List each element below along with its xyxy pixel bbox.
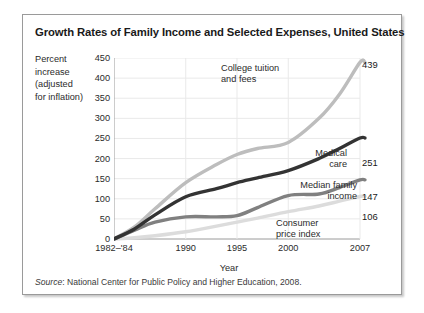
source-note-text: : National Center for Public Policy and … — [62, 277, 301, 287]
annotation-medical-care-line-2: care — [299, 159, 347, 170]
annotation-college-tuition: College tuition and fees — [221, 63, 279, 86]
y-axis-tick-label: 300 — [80, 113, 110, 123]
x-axis-tick-label: 2007 — [350, 243, 370, 253]
y-axis-tick-label: 50 — [80, 214, 110, 224]
value-medical-care: 251 — [362, 157, 378, 168]
value-consumer-price-index: 106 — [362, 211, 378, 222]
annotation-median-family-income-line-2: income — [285, 191, 357, 202]
annotation-college-tuition-line-1: College tuition — [221, 63, 279, 74]
annotation-medical-care: Medical care — [299, 148, 347, 171]
page-title: Growth Rates of Family Income and Select… — [35, 26, 391, 38]
y-axis-tick-label: 400 — [80, 73, 110, 83]
x-axis-ticks: 1982–'841990199520002007 — [114, 243, 360, 259]
x-axis-tick-label: 1982–'84 — [95, 243, 133, 253]
value-median-family-income: 147 — [362, 191, 378, 202]
value-college-tuition: 439 — [362, 59, 378, 70]
annotation-consumer-price-index-line-1: Consumer — [276, 218, 320, 229]
x-axis-tick-label: 2000 — [278, 243, 298, 253]
y-axis-tick-label: 250 — [80, 133, 110, 143]
source-note: Source: National Center for Public Polic… — [35, 277, 302, 287]
figure-frame: Growth Rates of Family Income and Select… — [22, 14, 402, 295]
y-axis-tick-label: 350 — [80, 93, 110, 103]
annotation-median-family-income-line-1: Median family — [285, 180, 357, 191]
annotation-consumer-price-index-line-2: price index — [276, 229, 320, 240]
y-axis-tick-label: 200 — [80, 154, 110, 164]
y-axis-tick-label: 100 — [80, 194, 110, 204]
x-axis-tick-label: 1990 — [176, 243, 196, 253]
annotation-college-tuition-line-2: and fees — [221, 74, 279, 85]
annotation-consumer-price-index: Consumer price index — [276, 218, 320, 241]
x-axis-tick-label: 1995 — [227, 243, 247, 253]
y-axis-ticks: 050100150200250300350400450 — [78, 58, 110, 239]
annotation-median-family-income: Median family income — [285, 180, 357, 203]
y-axis-tick-label: 150 — [80, 174, 110, 184]
x-axis-label: Year — [114, 263, 344, 273]
source-note-label: Source — [35, 277, 62, 287]
y-axis-tick-label: 450 — [80, 53, 110, 63]
annotation-medical-care-line-1: Medical — [299, 148, 347, 159]
